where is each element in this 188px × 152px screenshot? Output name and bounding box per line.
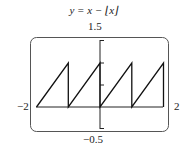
plot-area xyxy=(0,0,188,152)
sawtooth-series xyxy=(37,63,164,107)
